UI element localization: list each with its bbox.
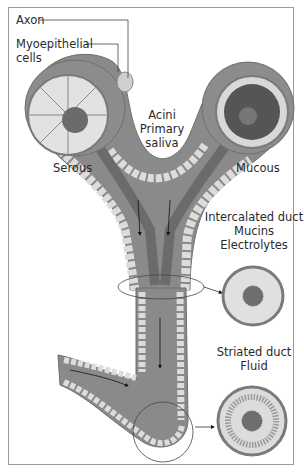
- striated-duct: [58, 288, 188, 447]
- label-myoepithelial-cells: cells: [16, 51, 42, 65]
- intercalated-pointer: [204, 287, 222, 293]
- axon-ending: [117, 72, 133, 92]
- serous-lumen: [62, 107, 88, 133]
- label-striated-duct: Striated duct: [217, 345, 292, 359]
- label-mucins: Mucins: [234, 224, 274, 238]
- label-mucous: Mucous: [236, 161, 280, 175]
- label-serous: Serous: [53, 161, 92, 175]
- label-primary: Primary: [140, 122, 184, 136]
- striated-cross-section: [218, 387, 286, 455]
- intercalated-cross-section: [223, 267, 283, 325]
- label-fluid: Fluid: [240, 359, 268, 373]
- label-axon: Axon: [16, 13, 45, 27]
- mucous-acinus: [202, 62, 294, 154]
- mucous-lumen: [239, 107, 257, 125]
- label-saliva: saliva: [145, 136, 178, 150]
- label-acini: Acini: [148, 108, 176, 122]
- label-electrolytes: Electrolytes: [220, 238, 287, 252]
- label-intercalated-duct: Intercalated duct: [205, 210, 303, 224]
- label-myoepithelial: Myoepithelial: [16, 37, 93, 51]
